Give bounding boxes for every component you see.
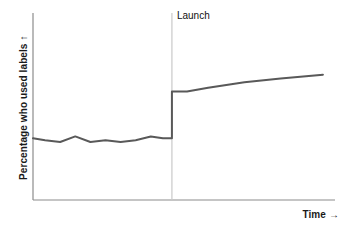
chart-plot-area: [0, 0, 348, 226]
x-axis-title: Time →: [302, 209, 339, 220]
launch-annotation-label: Launch: [177, 10, 210, 21]
data-series-line: [33, 75, 323, 142]
y-axis-title: Percentage who used labels ↑: [18, 35, 29, 180]
chart-container: Percentage who used labels ↑ Time → Laun…: [0, 0, 348, 226]
